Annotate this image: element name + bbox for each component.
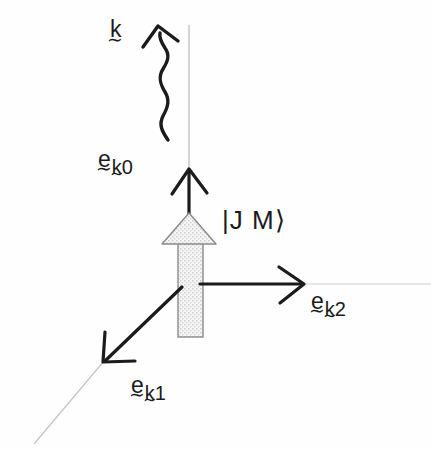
- arrow-ek1-shaft: [105, 287, 182, 361]
- wavy-arrow-k-path: [160, 33, 168, 140]
- subscript-wrap-0: k∼0: [112, 156, 134, 179]
- subscript-tilde-k-0: ∼: [110, 166, 123, 182]
- label-wave-vector-k: k ∼: [110, 18, 122, 41]
- subscript-symbol-k-2: k∼: [325, 299, 335, 319]
- arrow-ek1: [103, 287, 182, 362]
- block-arrow-jm-head: [162, 213, 216, 244]
- label-polarization-ek2: e ∼ k∼2: [311, 290, 345, 314]
- axis-lowerleft-extension-line: [34, 361, 104, 444]
- wavy-arrow-k: [143, 26, 178, 140]
- subscript-symbol-k-0: k∼: [112, 157, 122, 177]
- vector-symbol-k: k ∼: [110, 18, 122, 41]
- arrow-ek2: [200, 267, 304, 303]
- subscript-index-0: 0: [122, 156, 134, 178]
- label-polarization-ek1: e ∼ k∼1: [131, 374, 165, 398]
- physics-diagram-figure: k ∼ e ∼ k∼0 e ∼ k∼1 e ∼ k∼2 |J M⟩: [0, 0, 431, 450]
- subscript-wrap-2: k∼2: [325, 298, 347, 321]
- vector-symbol-e-0: e ∼: [98, 148, 111, 171]
- vector-symbol-e-2: e ∼: [311, 290, 324, 313]
- vector-symbol-e-1: e ∼: [131, 374, 144, 397]
- subscript-tilde-k-2: ∼: [323, 308, 336, 324]
- label-angular-momentum-ket: |J M⟩: [222, 205, 286, 236]
- subscript-index-2: 2: [335, 298, 347, 320]
- diagram-canvas: [0, 0, 431, 450]
- label-polarization-ek0: e ∼ k∼0: [98, 148, 132, 172]
- vector-tilde-k: ∼: [107, 30, 123, 49]
- block-arrow-jm: [162, 213, 216, 337]
- subscript-wrap-1: k∼1: [145, 382, 167, 405]
- subscript-symbol-k-1: k∼: [145, 383, 155, 403]
- subscript-index-1: 1: [155, 382, 167, 404]
- subscript-tilde-k-1: ∼: [143, 392, 156, 408]
